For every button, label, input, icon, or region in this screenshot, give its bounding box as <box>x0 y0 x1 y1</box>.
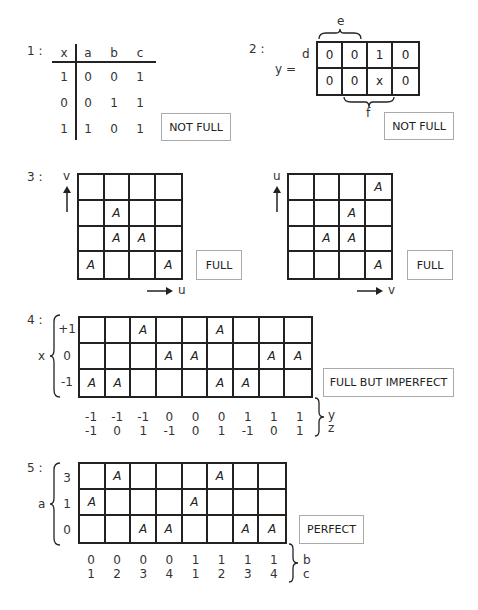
grid-cell: A <box>260 344 286 370</box>
grid-cell <box>156 227 182 253</box>
row-label: 0 <box>58 349 76 363</box>
col-label: 1 <box>287 424 313 438</box>
grid-cell <box>80 318 106 344</box>
col-label: 2 <box>209 567 235 581</box>
up-arrow-icon <box>272 185 282 213</box>
map-cell: 0 <box>343 69 368 95</box>
section-1-label: 1 : <box>27 44 43 58</box>
section-2-label: 2 : <box>249 42 265 56</box>
col-label: 1 <box>261 553 287 567</box>
cell: 1 <box>132 70 148 84</box>
grid-cell <box>366 201 392 227</box>
section-4-label: 4 : <box>27 313 43 327</box>
grid-cell: A <box>106 464 132 490</box>
grid-cell <box>260 370 286 396</box>
grid-cell <box>157 490 183 516</box>
grid-cell <box>208 490 234 516</box>
brace-e-label: e <box>337 14 344 28</box>
col-var-c: c <box>303 567 310 581</box>
verdict-badge: FULL BUT IMPERFECT <box>323 368 454 397</box>
col-label: -1 <box>235 424 261 438</box>
cell: 1 <box>106 96 122 110</box>
grid-cell <box>289 227 315 253</box>
grid-cell: A <box>234 370 260 396</box>
grid-cell <box>183 318 209 344</box>
grid-cell <box>157 318 183 344</box>
grid-cell <box>131 370 157 396</box>
grid-cell <box>289 175 315 201</box>
grid-cell <box>157 370 183 396</box>
grid-cell <box>156 201 182 227</box>
map-cell: 1 <box>368 43 393 69</box>
grid-cell <box>79 201 105 227</box>
header-a: a <box>80 46 96 60</box>
grid-cell: A <box>366 252 392 278</box>
grid-cell <box>234 490 260 516</box>
right-arrow-icon <box>356 286 384 296</box>
header-b: b <box>106 46 122 60</box>
row-label: +1 <box>58 322 76 336</box>
col-label: 0 <box>209 410 235 424</box>
map-cell: 0 <box>318 69 343 95</box>
grid-cell <box>340 175 366 201</box>
header-x: x <box>56 46 72 60</box>
grid-cell: A <box>79 252 105 278</box>
map-cell: 0 <box>343 43 368 69</box>
grid-cell <box>131 490 157 516</box>
row-label: 3 <box>58 471 76 485</box>
grid-cell <box>289 201 315 227</box>
y-equals-label: y = <box>275 62 296 76</box>
col-label: 3 <box>235 567 261 581</box>
col-label: 1 <box>183 567 209 581</box>
column-brace <box>314 397 326 437</box>
col-label: 0 <box>156 553 182 567</box>
brace-e <box>318 28 362 40</box>
grid-cell: A <box>131 516 157 542</box>
cell: 0 <box>106 70 122 84</box>
map-cell: 0 <box>318 43 343 69</box>
col-label: 1 <box>78 567 104 581</box>
grid-cell: A <box>315 227 341 253</box>
row-var-d: d <box>302 47 310 61</box>
col-label: 1 <box>235 410 261 424</box>
col-label: 1 <box>209 553 235 567</box>
grid-cell: A <box>105 201 131 227</box>
grid-section-5: A A A A A A A A <box>78 462 287 544</box>
cell: 1 <box>80 122 96 136</box>
grid-cell <box>105 175 131 201</box>
grid-cell: A <box>156 252 182 278</box>
grid-cell: A <box>366 175 392 201</box>
verdict-badge: NOT FULL <box>384 112 454 140</box>
col-var-y: y <box>328 408 335 422</box>
column-labels: 0 0 0 0 1 1 1 1 1 2 3 4 1 2 3 4 <box>78 553 287 581</box>
cell: 0 <box>106 122 122 136</box>
grid-cell <box>234 318 260 344</box>
grid-cell <box>157 464 183 490</box>
grid-cell <box>80 464 106 490</box>
grid-cell: A <box>157 516 183 542</box>
grid-cell: A <box>208 464 234 490</box>
grid-cell: A <box>208 370 234 396</box>
col-label: 3 <box>130 567 156 581</box>
row-var-x: x <box>38 349 45 363</box>
map-cell: x <box>368 69 393 95</box>
right-arrow-icon <box>146 286 174 296</box>
column-labels: -1 -1 -1 0 0 0 1 1 1 -1 0 1 -1 0 1 -1 0 … <box>78 410 313 438</box>
grid-cell <box>289 252 315 278</box>
grid-cell <box>208 344 234 370</box>
grid-section-4: A A A A A A A A A A <box>78 316 313 398</box>
col-label: 0 <box>78 553 104 567</box>
col-label: 1 <box>209 424 235 438</box>
grid-cell <box>285 318 311 344</box>
grid-cell <box>79 175 105 201</box>
grid-cell: A <box>80 370 106 396</box>
grid-cell: A <box>208 318 234 344</box>
cell: 1 <box>56 70 72 84</box>
col-label: 0 <box>261 424 287 438</box>
grid-cell <box>259 464 285 490</box>
header-divider <box>52 61 156 63</box>
column-brace <box>288 543 300 583</box>
grid-cell: A <box>285 344 311 370</box>
x-axis-label: v <box>388 283 395 297</box>
grid-cell <box>315 201 341 227</box>
